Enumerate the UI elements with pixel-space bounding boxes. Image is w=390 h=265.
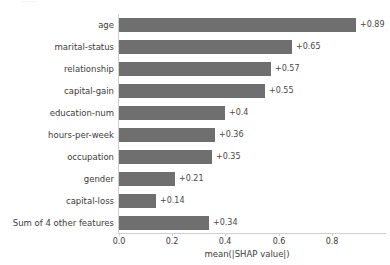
y-axis-tick-label: education-num bbox=[50, 108, 114, 118]
bar-row: hours-per-week+0.36 bbox=[0, 124, 390, 146]
bar-value-label: +0.55 bbox=[269, 86, 294, 96]
bar-row: gender+0.21 bbox=[0, 168, 390, 190]
bar-value-label: +0.14 bbox=[160, 196, 185, 206]
bar-value-label: +0.65 bbox=[296, 42, 321, 52]
x-axis-tick-label: 0.8 bbox=[326, 237, 339, 247]
bar-row: relationship+0.57 bbox=[0, 58, 390, 80]
bar-value-label: +0.34 bbox=[213, 218, 238, 228]
bar-row: Sum of 4 other features+0.34 bbox=[0, 212, 390, 234]
bar-value-label: +0.36 bbox=[219, 130, 244, 140]
y-axis-tick-label: marital-status bbox=[55, 42, 114, 52]
bar bbox=[119, 40, 292, 54]
x-axis-tick-label: 0.2 bbox=[166, 237, 179, 247]
plot-area: age+0.89marital-status+0.65relationship+… bbox=[0, 0, 390, 265]
x-axis-tick bbox=[119, 233, 120, 236]
x-axis-tick-label: 0.4 bbox=[219, 237, 232, 247]
bar bbox=[119, 150, 212, 164]
x-axis-tick bbox=[225, 233, 226, 236]
x-axis-tick bbox=[332, 233, 333, 236]
bar-row: capital-gain+0.55 bbox=[0, 80, 390, 102]
bar bbox=[119, 194, 156, 208]
bar-row: capital-loss+0.14 bbox=[0, 190, 390, 212]
y-axis-tick-label: relationship bbox=[64, 64, 114, 74]
bar bbox=[119, 128, 215, 142]
y-axis-tick-label: capital-loss bbox=[66, 196, 114, 206]
x-axis-title: mean(|SHAP value|) bbox=[0, 249, 390, 260]
x-axis-tick bbox=[172, 233, 173, 236]
bar-row: occupation+0.35 bbox=[0, 146, 390, 168]
x-axis-tick-label: 0.0 bbox=[113, 237, 126, 247]
bar bbox=[119, 62, 271, 76]
x-axis-tick bbox=[279, 233, 280, 236]
y-axis-tick-label: hours-per-week bbox=[48, 130, 114, 140]
y-axis-tick-label: Sum of 4 other features bbox=[13, 218, 114, 228]
bar-value-label: +0.89 bbox=[360, 20, 385, 30]
bar bbox=[119, 84, 265, 98]
bar bbox=[119, 18, 356, 32]
bar-row: marital-status+0.65 bbox=[0, 36, 390, 58]
bar-row: age+0.89 bbox=[0, 14, 390, 36]
y-axis-tick-label: age bbox=[98, 20, 114, 30]
y-axis-tick-label: capital-gain bbox=[64, 86, 114, 96]
bar bbox=[119, 172, 175, 186]
y-axis-tick-label: gender bbox=[84, 174, 114, 184]
bar-value-label: +0.4 bbox=[229, 108, 248, 118]
bar-value-label: +0.35 bbox=[216, 152, 241, 162]
x-axis-title-label: mean(|SHAP value|) bbox=[204, 249, 289, 260]
x-axis-tick-label: 0.6 bbox=[273, 237, 286, 247]
bar-row: education-num+0.4 bbox=[0, 102, 390, 124]
shap-bar-chart-figure: ...... age+0.89marital-status+0.65relati… bbox=[0, 0, 390, 265]
bar bbox=[119, 106, 225, 120]
y-axis-tick-label: occupation bbox=[67, 152, 114, 162]
bar-value-label: +0.57 bbox=[275, 64, 300, 74]
bar bbox=[119, 216, 209, 230]
bar-value-label: +0.21 bbox=[179, 174, 204, 184]
